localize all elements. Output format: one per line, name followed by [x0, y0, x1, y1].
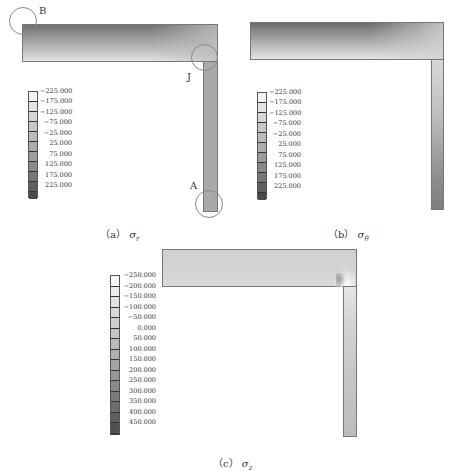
panel-c-legend-label: 300.000 [122, 387, 156, 395]
panel-c-legend-label: −250.000 [122, 271, 156, 279]
panel-a-swatch [29, 152, 37, 162]
panel-c-swatch [111, 402, 119, 413]
panel-a-legend-label: −225.000 [40, 87, 72, 95]
panel-c-flange [162, 249, 357, 287]
panel-c-swatch [111, 350, 119, 361]
panel-b-swatch [258, 133, 266, 143]
panel-b-swatch [258, 143, 266, 153]
panel-a-swatch [29, 172, 37, 182]
panel-a-legend-label: 25.000 [40, 139, 72, 147]
panel-c-web [343, 286, 357, 437]
panel-a-point-J-label: J [187, 71, 191, 82]
panel-b-swatch [258, 103, 266, 113]
panel-a-marker-J-circle [191, 44, 218, 71]
panel-b-swatch [258, 183, 266, 193]
panel-a-legend-label: 175.000 [40, 171, 72, 179]
panel-a-swatch [29, 162, 37, 172]
panel-c-legend-label: −50.000 [122, 313, 156, 321]
panel-c-legend-label: 350.000 [122, 397, 156, 405]
panel-c-legend-label: 150.000 [122, 355, 156, 363]
panel-c-swatch [111, 423, 119, 434]
panel-b-swatch [258, 153, 266, 163]
panel-b-caption-label: （b） [328, 229, 354, 240]
panel-a-caption: （a） σr [100, 226, 139, 243]
panel-c-swatch [111, 434, 119, 435]
panel-c-legend-label: −200.000 [122, 282, 156, 290]
panel-c-swatch [111, 371, 119, 382]
panel-a-swatch [29, 192, 37, 199]
panel-b-legend-label: 125.000 [269, 161, 301, 169]
panel-a-swatch [29, 112, 37, 122]
panel-b-swatch [258, 173, 266, 183]
panel-b-web [431, 59, 444, 210]
panel-c-legend-label: 50.000 [122, 334, 156, 342]
panel-c-caption-label: （c） [213, 458, 239, 469]
panel-a-swatch [29, 142, 37, 152]
panel-a-legend-label: −75.000 [40, 118, 72, 126]
panel-a-marker-A-circle [195, 190, 223, 218]
panel-b-caption-subscript: θ [364, 235, 368, 243]
panel-b-colorbar [257, 92, 267, 199]
panel-a-swatch [29, 92, 37, 102]
panel-a-legend-label: 125.000 [40, 160, 72, 168]
panel-b-legend-label: 25.000 [269, 140, 301, 148]
panel-c-swatch [111, 297, 119, 308]
panel-b-swatch [258, 123, 266, 133]
panel-b-flange-right-fade [370, 23, 443, 59]
panel-b-legend-label: −125.000 [269, 109, 301, 117]
panel-c-caption-subscript: z [249, 464, 253, 472]
panel-b-legend-label: 75.000 [269, 151, 301, 159]
panel-b-legend-label: −75.000 [269, 119, 301, 127]
panel-c-swatch [111, 381, 119, 392]
panel-a-swatch [29, 122, 37, 132]
panel-b-legend-label: 175.000 [269, 172, 301, 180]
panel-c-caption: （c） σz [213, 455, 252, 472]
panel-a-point-B-label: B [39, 5, 46, 16]
panel-a-legend-label: −175.000 [40, 97, 72, 105]
panel-a-swatch [29, 132, 37, 142]
panel-a-point-A-label: A [190, 180, 197, 191]
panel-a-legend-label: −25.000 [40, 129, 72, 137]
panel-c-legend-label: 250.000 [122, 376, 156, 384]
panel-a-colorbar [28, 91, 38, 198]
panel-c-legend-label: 100.000 [122, 345, 156, 353]
panel-b-swatch [258, 93, 266, 103]
panel-c-caption-symbol: σ [242, 458, 249, 469]
panel-c-swatch [111, 276, 119, 287]
panel-a-legend-label: 75.000 [40, 150, 72, 158]
panel-b-caption: （b） σθ [328, 226, 369, 243]
panel-b-legend-label: −225.000 [269, 88, 301, 96]
panel-b-legend-label: 225.000 [269, 182, 301, 190]
panel-a-caption-subscript: r [136, 235, 139, 243]
panel-a-legend-label: 225.000 [40, 181, 72, 189]
panel-b-legend-label: −175.000 [269, 98, 301, 106]
panel-c-swatch [111, 339, 119, 350]
panel-c-colorbar [110, 275, 120, 435]
panel-c-swatch [111, 318, 119, 329]
panel-a-swatch [29, 182, 37, 192]
panel-c-legend-label: −150.000 [122, 292, 156, 300]
panel-a-caption-label: （a） [100, 229, 126, 240]
panel-a-marker-B-circle [9, 7, 37, 35]
panel-c-legend-label: 400.000 [122, 408, 156, 416]
panel-b-legend-label: −25.000 [269, 130, 301, 138]
panel-c-swatch [111, 308, 119, 319]
panel-c-swatch [111, 392, 119, 403]
panel-c-legend-label: −100.000 [122, 303, 156, 311]
panel-c-legend-label: 450.000 [122, 418, 156, 426]
panel-c-swatch [111, 329, 119, 340]
panel-c-swatch [111, 413, 119, 424]
panel-b-swatch [258, 163, 266, 173]
panel-c-swatch [111, 287, 119, 298]
panel-a-caption-symbol: σ [129, 229, 136, 240]
panel-c-legend-label: 0.000 [122, 324, 156, 332]
panel-a-legend-label: −125.000 [40, 108, 72, 116]
panel-c-swatch [111, 360, 119, 371]
panel-a-swatch [29, 102, 37, 112]
panel-b-swatch [258, 193, 266, 200]
panel-c-legend-label: 200.000 [122, 366, 156, 374]
panel-b-swatch [258, 113, 266, 123]
